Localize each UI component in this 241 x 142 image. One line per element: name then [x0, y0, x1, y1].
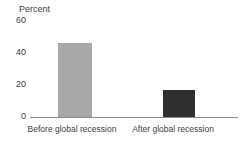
- y-tick-label-40: 40: [0, 47, 26, 58]
- x-axis-line: [30, 117, 238, 118]
- bar-after-global-recession: [163, 90, 195, 117]
- y-axis-title: Percent: [19, 4, 50, 15]
- plot-area: [30, 21, 238, 118]
- y-tick-label-0: 0: [0, 111, 26, 122]
- x-tick-label-after-global-recession: After global recession: [123, 124, 223, 134]
- bar-before-global-recession: [58, 43, 92, 117]
- bar-chart: Percent 60 40 20 0 Before global recessi…: [0, 0, 241, 142]
- y-tick-label-20: 20: [0, 79, 26, 90]
- y-tick-label-60: 60: [0, 15, 26, 26]
- x-tick-label-before-global-recession: Before global recession: [22, 124, 122, 134]
